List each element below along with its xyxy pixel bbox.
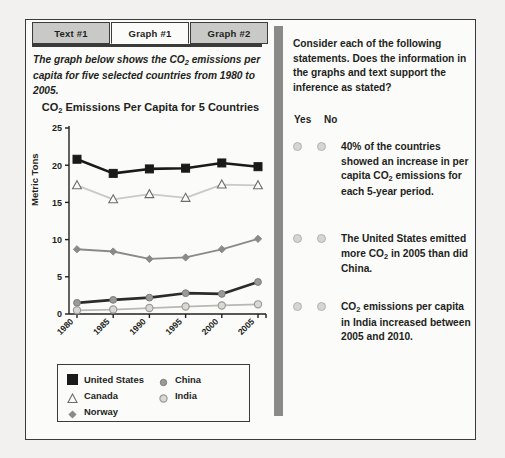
legend-row: Norway <box>67 403 249 419</box>
legend-item-china: China <box>158 374 249 385</box>
intro-before: The graph below shows the CO <box>33 54 185 65</box>
legend-swatch-small-circle <box>158 374 169 385</box>
legend-swatch-diamond <box>67 406 78 417</box>
radio-yes-q3[interactable] <box>293 302 302 311</box>
y-axis-tick: 20 <box>52 161 62 171</box>
question-item: The United States emitted more CO2 in 20… <box>293 232 475 277</box>
y-axis-tick: 0 <box>57 309 62 319</box>
legend-label: India <box>175 390 197 401</box>
question-text-subscript: 2 <box>389 174 393 183</box>
series-norway <box>73 235 261 262</box>
answer-radio-group <box>293 300 341 345</box>
tab-label: Text #1 <box>54 28 87 39</box>
answer-column-headers: YesNo <box>294 114 364 125</box>
tab-graph-1[interactable]: Graph #1 <box>111 22 189 44</box>
question-text-before: CO <box>341 301 356 312</box>
legend-swatch-open-circle <box>158 390 169 401</box>
tab-label: Graph #1 <box>129 28 172 39</box>
legend-swatch-square <box>67 374 78 385</box>
panel-divider <box>274 26 283 416</box>
legend-swatch-triangle <box>67 390 78 401</box>
series-india <box>73 301 261 314</box>
x-axis-tick: 1985 <box>91 316 112 337</box>
tab-label: Graph #2 <box>208 28 251 39</box>
question-text: 40% of the countries showed an increase … <box>341 140 475 199</box>
x-axis-tick: 1990 <box>127 316 148 337</box>
chart-svg: 0510152025198019851990199520002005 <box>33 118 271 348</box>
radio-no-q2[interactable] <box>317 234 326 243</box>
question-text: The United States emitted more CO2 in 20… <box>341 232 475 277</box>
legend-label: China <box>175 374 201 385</box>
chart-title-before: CO <box>42 101 59 113</box>
radio-yes-q2[interactable] <box>293 234 302 243</box>
answer-radio-group <box>293 140 341 199</box>
legend-item-india: India <box>158 390 249 401</box>
intro-subscript: 2 <box>185 58 189 67</box>
question-text-subscript: 2 <box>384 252 388 261</box>
chart-title-subscript: 2 <box>58 106 62 115</box>
tab-graph-2[interactable]: Graph #2 <box>190 22 268 44</box>
y-axis-tick: 5 <box>57 272 62 282</box>
chart-title: CO2 Emissions Per Capita for 5 Countries <box>33 101 268 113</box>
y-axis-tick: 10 <box>52 235 62 245</box>
series-canada <box>73 180 263 203</box>
legend-item-norway: Norway <box>67 406 158 417</box>
question-item: CO2 emissions per capita in India increa… <box>293 300 475 345</box>
tab-underline <box>32 44 262 47</box>
instructions-text: Consider each of the following statement… <box>293 37 473 95</box>
tab-text-1[interactable]: Text #1 <box>32 22 110 44</box>
question-text: CO2 emissions per capita in India increa… <box>341 300 475 345</box>
y-axis-tick: 15 <box>52 198 62 208</box>
legend-label: United States <box>84 374 144 385</box>
radio-no-q3[interactable] <box>317 302 326 311</box>
x-axis-tick: 2005 <box>236 316 257 337</box>
question-item: 40% of the countries showed an increase … <box>293 140 475 199</box>
chart-title-after: Emissions Per Capita for 5 Countries <box>62 101 259 113</box>
series-china <box>74 279 262 307</box>
x-axis-tick: 2000 <box>200 316 221 337</box>
x-axis-tick: 1995 <box>163 316 184 337</box>
legend-item-united-states: United States <box>67 374 158 385</box>
legend-row: CanadaIndia <box>67 387 249 403</box>
tab-bar: Text #1 Graph #1 Graph #2 <box>32 22 268 46</box>
line-chart: Metric Tons 0510152025198019851990199520… <box>33 118 271 348</box>
legend-item-canada: Canada <box>67 390 158 401</box>
legend-row: United StatesChina <box>67 371 249 387</box>
series-united-states <box>73 155 262 177</box>
yes-header: Yes <box>294 114 324 125</box>
no-header: No <box>324 114 337 125</box>
chart-legend: United StatesChinaCanadaIndiaNorway <box>57 364 250 422</box>
legend-label: Canada <box>84 390 118 401</box>
radio-yes-q1[interactable] <box>293 142 302 151</box>
question-text-after: emissions per capita in India increased … <box>341 301 471 342</box>
radio-no-q1[interactable] <box>317 142 326 151</box>
answer-radio-group <box>293 232 341 277</box>
intro-text: The graph below shows the CO2 emissions … <box>33 52 261 98</box>
legend-label: Norway <box>84 406 118 417</box>
y-axis-tick: 25 <box>52 123 62 133</box>
question-text-subscript: 2 <box>356 305 360 314</box>
